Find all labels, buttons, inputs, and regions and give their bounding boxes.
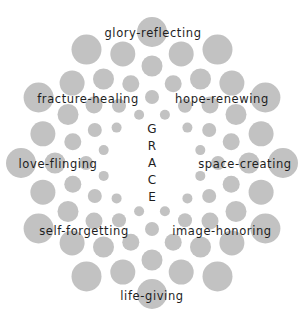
label-love-flinging: love-flinging [19, 159, 98, 171]
dot [226, 201, 247, 222]
dot [93, 237, 114, 258]
dot [190, 69, 211, 90]
dot [134, 110, 144, 120]
dot [99, 145, 109, 155]
dot [58, 201, 79, 222]
dot [145, 222, 159, 236]
dot [142, 250, 163, 271]
label-image-honoring: image-honoring [172, 226, 272, 238]
dot [142, 56, 163, 77]
center-word-grace: G R A C E [147, 121, 156, 206]
label-life-giving: life-giving [120, 291, 183, 303]
dot [226, 104, 247, 125]
center-letter: G [147, 121, 156, 138]
dot [134, 206, 144, 216]
dot [190, 237, 211, 258]
dot [64, 133, 81, 150]
dot [110, 41, 135, 66]
dot [160, 110, 170, 120]
dot [202, 189, 216, 203]
dot [122, 75, 139, 92]
dot [203, 261, 233, 291]
dot [110, 260, 135, 285]
label-glory-reflecting: glory-reflecting [104, 28, 201, 40]
dot [99, 171, 109, 181]
center-letter: R [148, 138, 156, 155]
dot [145, 90, 159, 104]
dot [30, 180, 55, 205]
center-letter: E [148, 189, 156, 206]
dot [182, 193, 192, 203]
dot [249, 180, 274, 205]
dot [72, 261, 102, 291]
center-letter: C [148, 172, 156, 189]
dot [249, 121, 274, 146]
dot [169, 41, 194, 66]
label-self-forgetting: self-forgetting [39, 226, 129, 238]
dot [160, 206, 170, 216]
dot [195, 171, 205, 181]
dot [58, 104, 79, 125]
dot [112, 123, 122, 133]
dot [223, 176, 240, 193]
center-letter: A [148, 155, 156, 172]
label-hope-renewing: hope-renewing [175, 94, 269, 106]
dot [203, 35, 233, 65]
dot [88, 189, 102, 203]
dot [30, 121, 55, 146]
dot [165, 75, 182, 92]
grace-diagram: glory-reflecting fracture-healing hope-r… [0, 0, 306, 322]
label-fracture-healing: fracture-healing [37, 94, 139, 106]
dot [223, 133, 240, 150]
dot [182, 123, 192, 133]
label-space-creating: space-creating [198, 159, 292, 171]
dot [72, 35, 102, 65]
dot [202, 123, 216, 137]
dot [195, 145, 205, 155]
dot [88, 123, 102, 137]
dot [64, 176, 81, 193]
dot [169, 260, 194, 285]
dot [93, 69, 114, 90]
dot [112, 193, 122, 203]
